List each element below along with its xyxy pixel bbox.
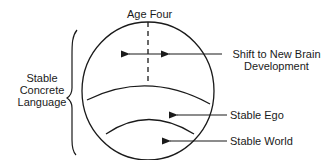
- stable-world-arc: [106, 120, 194, 135]
- left-label-line: Stable: [13, 72, 71, 84]
- shift-label-line: Development: [224, 60, 329, 72]
- shift-label: Shift to New Brain Development: [224, 48, 329, 72]
- stable-world-label: Stable World: [230, 135, 293, 147]
- left-label-line: Language: [13, 96, 71, 108]
- stable-ego-arc: [87, 86, 210, 104]
- left-label-line: Concrete: [13, 84, 71, 96]
- age-four-label: Age Four: [127, 8, 172, 20]
- stable-ego-label: Stable Ego: [230, 109, 284, 121]
- stable-concrete-language-label: Stable Concrete Language: [13, 72, 71, 108]
- shift-label-line: Shift to New Brain: [224, 48, 329, 60]
